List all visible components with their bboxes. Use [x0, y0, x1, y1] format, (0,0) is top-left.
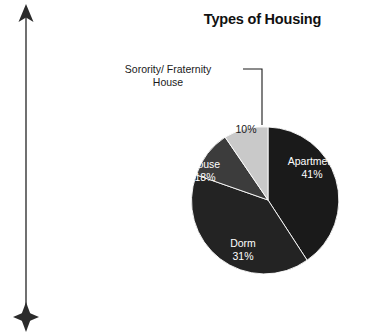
callout-leader-line	[243, 69, 262, 125]
callout-line-1: Sorority/	[125, 63, 164, 75]
chart-title: Types of Housing	[150, 12, 375, 28]
pie-callout-sorority-fraternity-house: Sorority/ Fraternity House	[112, 63, 224, 89]
pie-label-sorority-fraternity-house-value: 10%	[224, 123, 268, 136]
pie-label-dorm-value: 31%	[215, 250, 271, 263]
pie-chart-svg	[150, 55, 375, 325]
pie-label-house-value: 18%	[177, 171, 233, 184]
pie-chart	[150, 55, 375, 325]
pie-label-dorm-name: Dorm	[215, 237, 271, 250]
pie-label-apartment: Apartment 41%	[279, 155, 345, 180]
pie-label-dorm: Dorm 31%	[215, 237, 271, 262]
chart-page: Types of Housing Sorority/ Fraternity Ho…	[0, 0, 380, 333]
pie-label-sorority-value: 10%	[224, 123, 268, 136]
vertical-double-arrow-icon	[6, 2, 46, 332]
pie-label-apartment-name: Apartment	[279, 155, 345, 168]
pie-label-house: House 18%	[177, 158, 233, 183]
pie-label-apartment-value: 41%	[279, 168, 345, 181]
pie-label-house-name: House	[177, 158, 233, 171]
